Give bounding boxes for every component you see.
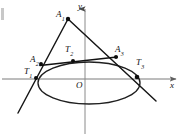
label-A2: A2 xyxy=(30,55,39,66)
label-A3-letter: A xyxy=(115,44,121,54)
label-T2: T2 xyxy=(65,45,73,56)
ellipse-curve xyxy=(38,62,140,104)
point-T3-dot xyxy=(135,75,140,80)
label-A2-subscript: 2 xyxy=(36,61,39,67)
label-origin: O xyxy=(76,81,83,90)
label-A1-letter: A xyxy=(56,9,62,19)
point-T1-dot xyxy=(34,76,38,80)
point-A1-dot xyxy=(66,17,70,21)
scan-edge-artifact xyxy=(1,8,4,20)
label-T1-subscript: 1 xyxy=(29,73,32,79)
label-A1: A1 xyxy=(56,10,65,21)
label-T3: T3 xyxy=(136,58,144,69)
label-A2-letter: A xyxy=(30,54,36,64)
label-T3-subscript: 3 xyxy=(141,64,144,70)
label-T2-subscript: 2 xyxy=(70,51,73,57)
point-A2-dot xyxy=(39,62,43,66)
label-x-axis: x xyxy=(170,81,174,90)
label-A3: A3 xyxy=(115,45,124,56)
label-T1: T1 xyxy=(24,67,32,78)
label-y-axis: y xyxy=(78,2,82,11)
geometry-figure: A1 A2 A3 T1 T2 T3 O x y xyxy=(0,0,184,136)
label-A3-subscript: 3 xyxy=(121,51,124,57)
line-A2-A3 xyxy=(40,57,117,66)
label-A1-subscript: 1 xyxy=(62,16,65,22)
point-T2-dot xyxy=(71,59,75,63)
